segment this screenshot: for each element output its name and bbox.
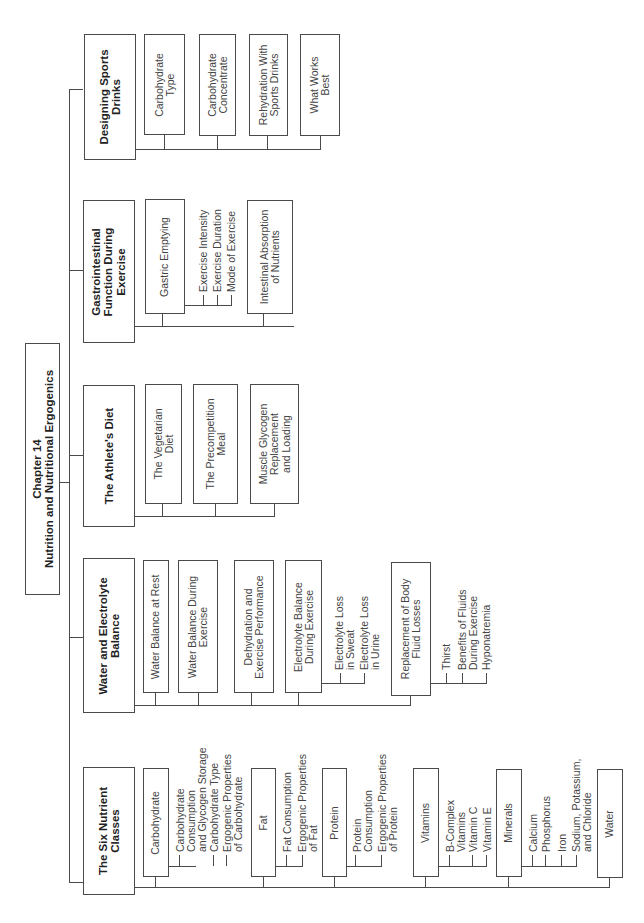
child-label: The Vegetarian Diet: [152, 408, 175, 479]
section-title: Gastrointestinal Function During Exercis…: [90, 227, 127, 316]
topic-label: Ergogenic Properties of Protein: [377, 754, 399, 852]
topic-label: Ergogenic Properties of Carbohydrate: [222, 754, 244, 852]
topic-label: Iron: [557, 834, 568, 852]
child-label: Electrolyte Balance During Exercise: [292, 582, 315, 672]
connector: [431, 683, 487, 684]
connector: [231, 295, 232, 306]
child-label: What Works Best: [309, 57, 332, 114]
nutrient-vitamins: Vitamins: [413, 768, 439, 877]
connector: [213, 855, 214, 866]
connector: [532, 855, 533, 866]
topic-label: Mode of Exercise: [226, 211, 237, 292]
topic-label: Vitamin E: [482, 807, 493, 852]
section-water-electrolyte: Water and Electrolyte Balance: [83, 558, 135, 713]
connector: [198, 693, 199, 705]
topic-label: Protein Consumption: [352, 790, 374, 852]
child-label: Replacement of Body Fluid Losses: [400, 579, 423, 679]
connector: [462, 673, 463, 684]
connector: [334, 877, 335, 887]
child-label: Fat: [258, 815, 269, 830]
topic-label: Sodium, Potassium, and Chloride: [571, 759, 593, 852]
connector: [410, 696, 411, 706]
connector: [135, 887, 508, 888]
root-title-line1: Chapter 14: [30, 439, 42, 498]
topic-label: Thirst: [441, 644, 452, 670]
connector: [203, 295, 204, 306]
child-label: Carbohydrate Concentrate: [206, 53, 229, 117]
child-label: Vitamins: [420, 802, 431, 842]
topic-label: Electrolyte Loss in Urine: [359, 596, 381, 670]
topic-electrolyte-balance: Electrolyte Balance During Exercise: [285, 560, 322, 693]
section-title: Water and Electrolyte Balance: [97, 577, 122, 694]
connector: [135, 705, 411, 706]
connector: [472, 855, 473, 866]
connector: [298, 693, 299, 705]
topic-label: Benefits of Fluids During Exercise: [457, 589, 479, 670]
connector: [340, 673, 341, 684]
connector: [162, 504, 163, 516]
topic-water-balance-rest: Water Balance at Rest: [143, 560, 169, 693]
connector: [381, 855, 382, 866]
connector: [185, 305, 232, 306]
connector: [164, 135, 165, 149]
section-sports-drinks: Designing Sports Drinks: [84, 34, 136, 160]
topic-label: Exercise Intensity: [198, 210, 209, 292]
connector: [522, 866, 577, 867]
connector: [355, 855, 356, 866]
connector: [274, 504, 275, 516]
root-title: Chapter 14 Nutrition and Nutritional Erg…: [30, 370, 55, 568]
connector: [508, 887, 610, 888]
child-label: Minerals: [503, 803, 514, 843]
connector: [263, 314, 264, 326]
connector: [276, 866, 303, 867]
connector: [576, 855, 577, 866]
child-label: Dehydration and Exercise Performance: [243, 575, 266, 678]
topic-label: Ergogenic Properties of Fat: [297, 754, 319, 852]
child-label: Protein: [329, 806, 340, 839]
topic-label: Hyponatremia: [481, 605, 492, 670]
connector: [286, 855, 287, 866]
topic-label: Exercise Duration: [212, 209, 223, 292]
topic-label: Calcium: [528, 814, 539, 852]
child-label: Water Balance During Exercise: [187, 575, 210, 677]
connector: [545, 855, 546, 866]
section-title: The Six Nutrient Classes: [97, 787, 122, 875]
connector: [425, 877, 426, 887]
topic-rehydration: Rehydration With Sports Drinks: [249, 34, 288, 136]
topic-gastric-emptying: Gastric Emptying: [145, 199, 185, 314]
child-label: The Precompetition Meal: [204, 398, 227, 489]
nutrient-protein: Protein: [322, 768, 347, 877]
connector: [344, 683, 365, 684]
connector: [136, 149, 321, 150]
connector: [347, 866, 382, 867]
section-title: Designing Sports Drinks: [98, 49, 123, 144]
topic-label: Electrolyte Loss in Sweat: [334, 596, 356, 670]
topic-label: B-Complex Vitamins: [445, 800, 467, 852]
connector: [226, 855, 227, 866]
connector: [320, 136, 321, 149]
connector: [215, 504, 216, 516]
connector: [508, 877, 509, 887]
topic-label: Vitamin C: [468, 807, 479, 852]
child-label: Rehydration With Sports Drinks: [257, 45, 280, 126]
child-label: Carbohydrate Type: [153, 53, 176, 117]
connector: [69, 637, 83, 638]
topic-muscle-glycogen: Muscle Glycogen Replacement and Loading: [250, 384, 299, 504]
connector: [155, 693, 156, 705]
connector: [486, 855, 487, 866]
connector: [135, 326, 294, 327]
main-spine: [69, 89, 70, 883]
topic-dehydration: Dehydration and Exercise Performance: [234, 560, 274, 693]
connector: [217, 136, 218, 149]
child-label: Intestinal Absorption of Nutrients: [259, 210, 282, 305]
root-title-line2: Nutrition and Nutritional Ergogenics: [43, 370, 55, 568]
connector: [217, 295, 218, 306]
topic-water-balance-exercise: Water Balance During Exercise: [178, 560, 218, 693]
topic-carbohydrate-concentrate: Carbohydrate Concentrate: [199, 34, 236, 136]
topic-replacement-fluid: Replacement of Body Fluid Losses: [391, 562, 431, 696]
section-title: The Athlete's Diet: [103, 408, 115, 504]
nutrient-minerals: Minerals: [496, 769, 522, 877]
connector: [69, 882, 83, 883]
connector: [169, 866, 196, 867]
connector: [69, 270, 83, 271]
